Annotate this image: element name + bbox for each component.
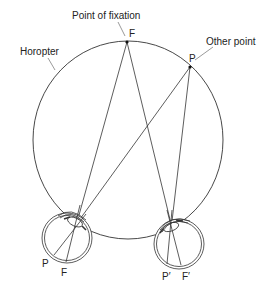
other-point-leader [195,47,213,60]
horopter-leader [48,58,55,70]
left-retina-f-label: F [61,267,67,278]
right-retina-p-label: P′ [162,271,171,282]
left-eye [42,212,92,263]
point-of-fixation-label: Point of fixation [72,10,140,21]
fixation-point-dot [125,40,128,43]
fixation-point-label: F [129,28,135,39]
other-point-marker-label: P [189,53,196,64]
other-point-label: Other point [206,36,256,47]
horopter-label: Horopter [20,46,60,57]
horopter-diagram: Horopter Point of fixation F Other point… [0,0,271,291]
left-retina-p-label: P [42,258,49,269]
right-eye [154,219,204,269]
other-point-dot [188,65,191,68]
fixation-leader [118,22,125,36]
horopter-circle [33,41,223,239]
right-retina-f-label: F′ [182,271,190,282]
